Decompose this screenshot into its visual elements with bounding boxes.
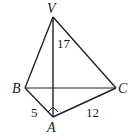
measure-ac: 12 — [86, 106, 99, 119]
vertex-label-c: C — [118, 82, 127, 96]
vertex-label-v: V — [47, 2, 56, 16]
vertex-label-a: A — [47, 121, 56, 135]
edge-BA — [25, 88, 53, 117]
measure-va: 17 — [57, 37, 70, 50]
vertex-label-b: B — [12, 82, 21, 96]
edge-AC — [53, 88, 116, 117]
tetrahedron-diagram — [0, 0, 133, 137]
edge-VB — [25, 17, 53, 88]
edge-VC — [53, 17, 116, 88]
measure-ab: 5 — [31, 106, 38, 119]
